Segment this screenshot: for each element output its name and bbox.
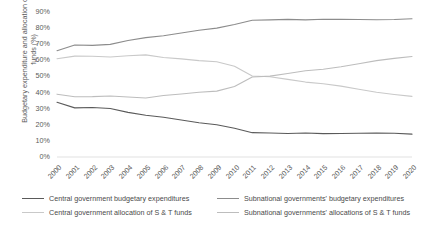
series-line-0 — [57, 102, 412, 134]
chart-legend: Central government budgetary expenditure… — [0, 192, 428, 231]
legend-swatch-icon — [22, 212, 44, 213]
legend-label: Subnational governments' budgetary expen… — [244, 194, 404, 203]
legend-label: Subnational governments' allocations of … — [244, 208, 410, 217]
legend-item-2[interactable]: Subnational governments' budgetary expen… — [217, 194, 404, 203]
legend-item-3[interactable]: Subnational governments' allocations of … — [217, 208, 410, 217]
series-line-2 — [57, 19, 412, 51]
series-line-3 — [57, 56, 412, 98]
legend-label: Central government allocation of S & T f… — [49, 208, 192, 217]
legend-swatch-icon — [217, 212, 239, 213]
series-line-1 — [57, 55, 412, 97]
legend-swatch-icon — [22, 198, 44, 199]
legend-item-0[interactable]: Central government budgetary expenditure… — [22, 194, 189, 203]
legend-swatch-icon — [217, 198, 239, 199]
legend-label: Central government budgetary expenditure… — [49, 194, 189, 203]
legend-item-1[interactable]: Central government allocation of S & T f… — [22, 208, 192, 217]
chart-container: Budgetary expenditure and allocation of … — [0, 0, 428, 231]
